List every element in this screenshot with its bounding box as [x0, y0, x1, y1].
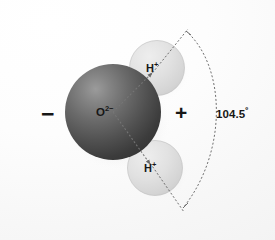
- bond-angle-label: 104.5º: [216, 107, 248, 120]
- negative-charge-label: −: [41, 103, 54, 126]
- positive-charge-label: +: [175, 102, 187, 123]
- bond-angle-arc: [183, 31, 216, 208]
- hydrogen-upper-label-charge: +: [154, 60, 158, 69]
- water-molecule-figure: O2− H+ H+ − + 104.5º: [0, 0, 275, 240]
- oxygen-label-symbol: O: [96, 106, 105, 118]
- oxygen-label-charge: 2−: [105, 104, 113, 113]
- hydrogen-upper-label-symbol: H: [146, 62, 154, 74]
- hydrogen-lower-label-symbol: H: [144, 162, 152, 174]
- hydrogen-upper-label: H+: [146, 61, 159, 74]
- oxygen-label: O2−: [96, 105, 113, 118]
- bond-angle-unit: º: [245, 106, 248, 115]
- arc-cap-upper: [186, 31, 191, 35]
- hydrogen-lower-label-charge: +: [152, 160, 156, 169]
- arc-cap-lower: [183, 203, 188, 208]
- hydrogen-lower-label: H+: [144, 161, 157, 174]
- bond-angle-value: 104.5: [216, 108, 245, 120]
